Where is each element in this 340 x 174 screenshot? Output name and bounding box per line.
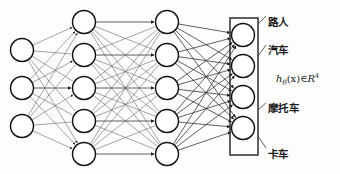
formula-dim: 4 xyxy=(315,72,319,80)
formula-arg: (x) xyxy=(287,73,300,84)
edges-input-to-hidden1 xyxy=(28,27,77,148)
output-label-pedestrian: 路人 xyxy=(268,14,289,29)
output-label-pedestrian-leader xyxy=(258,16,266,24)
input-layer-node-2 xyxy=(11,77,34,100)
hypothesis-formula: hθ(x)∈R4 xyxy=(276,72,319,87)
hidden-layer-1-node-2 xyxy=(73,44,96,67)
edges-hidden1-to-hidden2 xyxy=(90,22,160,154)
output-layer-node-2 xyxy=(232,55,255,78)
label-leader-lines xyxy=(258,16,266,148)
formula-member: ∈ xyxy=(300,73,307,84)
output-label-truck: 卡车 xyxy=(268,146,289,161)
input-layer-node-1 xyxy=(11,39,34,62)
hidden-layer-2-node-2 xyxy=(156,44,179,67)
output-label-motorcycle-leader xyxy=(258,103,266,110)
hidden-layer-1-node-3 xyxy=(73,77,96,100)
output-label-motorcycle: 摩托车 xyxy=(268,100,299,115)
output-layer-node-1 xyxy=(232,24,255,47)
hidden-layer-2-node-1 xyxy=(156,11,179,34)
formula-space: R xyxy=(308,73,316,84)
output-label-truck-leader xyxy=(258,136,266,148)
output-label-car-leader xyxy=(258,45,266,56)
hidden-layer-2-node-4 xyxy=(156,110,179,133)
hidden-layer-2-node-3 xyxy=(156,77,179,100)
edges-hidden2-to-output xyxy=(173,24,236,150)
output-label-car: 汽车 xyxy=(268,42,289,57)
hidden-layer-2-node-5 xyxy=(156,143,179,166)
input-layer-node-3 xyxy=(11,115,34,138)
hidden-layer-1-node-4 xyxy=(73,110,96,133)
hidden-layer-1-node-1 xyxy=(73,11,96,34)
output-layer-node-4 xyxy=(232,117,255,140)
neural-network-diagram: 路人汽车摩托车卡车 hθ(x)∈R4 xyxy=(0,0,340,174)
output-layer-node-3 xyxy=(232,86,255,109)
hidden-layer-1-node-5 xyxy=(73,143,96,166)
